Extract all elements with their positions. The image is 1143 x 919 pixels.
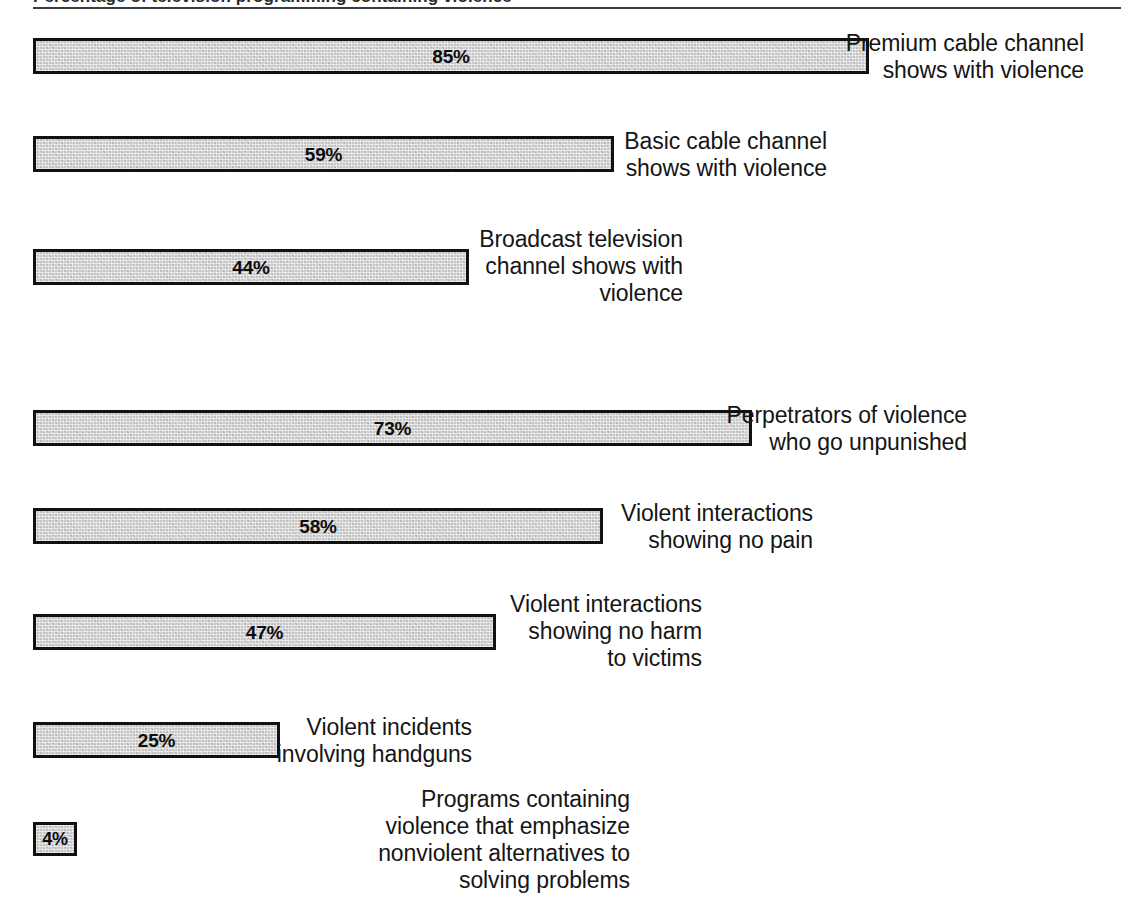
bar-value-label: 59% bbox=[305, 145, 342, 164]
bar-category-label-nonviolent-alternatives: Programs containing violence that emphas… bbox=[85, 786, 630, 894]
bar-category-label-no-pain: Violent interactions showing no pain bbox=[350, 500, 813, 554]
bar-category-label-broadcast-television: Broadcast television channel shows with … bbox=[210, 226, 683, 307]
bar-value-label: 4% bbox=[42, 830, 68, 848]
bar-value-label: 73% bbox=[374, 419, 411, 438]
bar-category-label-perpetrators-unpunished: Perpetrators of violence who go unpunish… bbox=[530, 402, 967, 456]
bar-category-label-basic-cable: Basic cable channel shows with violence bbox=[340, 128, 827, 182]
bar-value-label: 85% bbox=[432, 47, 469, 66]
bar-category-label-premium-cable: Premium cable channel shows with violenc… bbox=[600, 30, 1084, 84]
violence-in-television-bar-chart: Percentage of television programming con… bbox=[0, 0, 1143, 919]
bar-category-label-no-harm: Violent interactions showing no harm to … bbox=[260, 591, 702, 672]
bar-row-premium-cable: 85% Premium cable channel shows with vio… bbox=[0, 0, 1143, 110]
bar-category-label-handguns: Violent incidents involving handguns bbox=[60, 714, 472, 768]
bar-value-label: 58% bbox=[299, 517, 336, 536]
bar-programs-emphasizing-nonviolent-alternatives: 4% bbox=[33, 822, 77, 856]
